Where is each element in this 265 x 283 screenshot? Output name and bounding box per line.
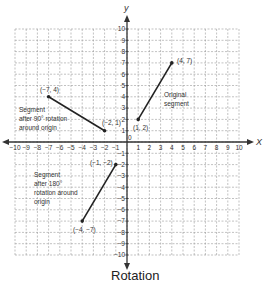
- y-tick-label: −7: [118, 217, 126, 224]
- y-tick-label: −2: [118, 161, 126, 168]
- point-label-neg1-neg2: (−1, −2): [90, 159, 113, 167]
- x-tick-label: 8: [215, 144, 219, 151]
- x-axis-left-arrow-icon: [2, 139, 9, 145]
- point-label-neg4-neg7: (−4, −7): [73, 226, 96, 234]
- y-axis-up-arrow-icon: [124, 15, 130, 22]
- x-tick-label: 6: [192, 144, 196, 151]
- x-tick-label: 10: [235, 144, 243, 151]
- x-tick-label: −6: [56, 144, 64, 151]
- x-tick-label: −7: [45, 144, 53, 151]
- x-tick-label: 3: [159, 144, 163, 151]
- x-tick-label: 2: [148, 144, 152, 151]
- original-segment-label-2: segment: [164, 100, 189, 108]
- y-tick-label: 1: [121, 127, 125, 134]
- x-tick-label: −10: [9, 144, 20, 151]
- origin-label: 0: [128, 134, 132, 141]
- y-tick-label: −10: [114, 251, 125, 258]
- x-tick-label: −5: [67, 144, 75, 151]
- y-tick-label: −3: [118, 172, 126, 179]
- x-tick-label: 1: [136, 144, 140, 151]
- x-tick-label: −8: [34, 144, 42, 151]
- point-neg4-neg7: [80, 219, 84, 223]
- point-4-7: [170, 61, 174, 65]
- coordinate-plane: y X 0 −10−9−8−7−6−5−4−3−2−11234567891012…: [0, 0, 265, 283]
- point-neg2-1: [103, 129, 107, 133]
- x-tick-label: 4: [170, 144, 174, 151]
- y-tick-label: 6: [121, 71, 125, 78]
- y-tick-label: 2: [121, 116, 125, 123]
- point-1-2: [136, 118, 140, 122]
- y-tick-label: 5: [121, 82, 125, 89]
- rotation-diagram: y X 0 −10−9−8−7−6−5−4−3−2−11234567891012…: [0, 0, 265, 283]
- rot180-label-4: origin: [34, 198, 50, 206]
- point-neg1-neg2: [114, 163, 118, 167]
- rotated-90-segment: (−7, 4) (−2, 1) Segment after 90° rotati…: [19, 86, 121, 133]
- x-tick-label: −9: [22, 144, 30, 151]
- point-label-neg7-4: (−7, 4): [40, 86, 59, 94]
- y-tick-label: −9: [118, 240, 126, 247]
- diagram-title: Rotation: [111, 268, 159, 283]
- x-axis-label: X: [255, 137, 263, 147]
- x-tick-label: 9: [226, 144, 230, 151]
- x-axis-right-arrow-icon: [247, 139, 254, 145]
- point-label-1-2: (1, 2): [133, 124, 148, 132]
- y-tick-label: 4: [121, 93, 125, 100]
- point-label-neg2-1: (−2, 1): [102, 119, 121, 127]
- x-tick-label: 7: [204, 144, 208, 151]
- x-tick-label: −4: [78, 144, 86, 151]
- y-axis-label: y: [123, 3, 129, 13]
- rot180-label-1: Segment: [34, 171, 60, 179]
- y-tick-label: 10: [118, 25, 126, 32]
- y-tick-label: −1: [118, 150, 126, 157]
- y-tick-label: −6: [118, 206, 126, 213]
- rot180-label-2: after 180°: [34, 180, 63, 187]
- x-tick-label: 5: [181, 144, 185, 151]
- original-segment-label-1: Original: [164, 91, 187, 99]
- rotated-180-segment: (−1, −2) (−4, −7) Segment after 180° rot…: [34, 159, 118, 234]
- x-tick-label: −2: [101, 144, 109, 151]
- y-tick-label: 9: [121, 37, 125, 44]
- rot90-label-2: after 90° rotation: [19, 115, 68, 122]
- y-tick-label: −8: [118, 229, 126, 236]
- rot180-label-3: rotation around: [34, 189, 78, 196]
- axes: y X 0: [2, 3, 263, 270]
- y-tick-label: 7: [121, 59, 125, 66]
- rot90-label-1: Segment: [19, 106, 45, 114]
- point-neg7-4: [47, 95, 51, 99]
- y-tick-label: 8: [121, 48, 125, 55]
- point-label-4-7: (4, 7): [177, 57, 192, 65]
- y-tick-label: −5: [118, 195, 126, 202]
- x-tick-label: −3: [90, 144, 98, 151]
- rot90-label-3: around origin: [19, 124, 57, 132]
- y-tick-label: −4: [118, 184, 126, 191]
- y-tick-label: 3: [121, 104, 125, 111]
